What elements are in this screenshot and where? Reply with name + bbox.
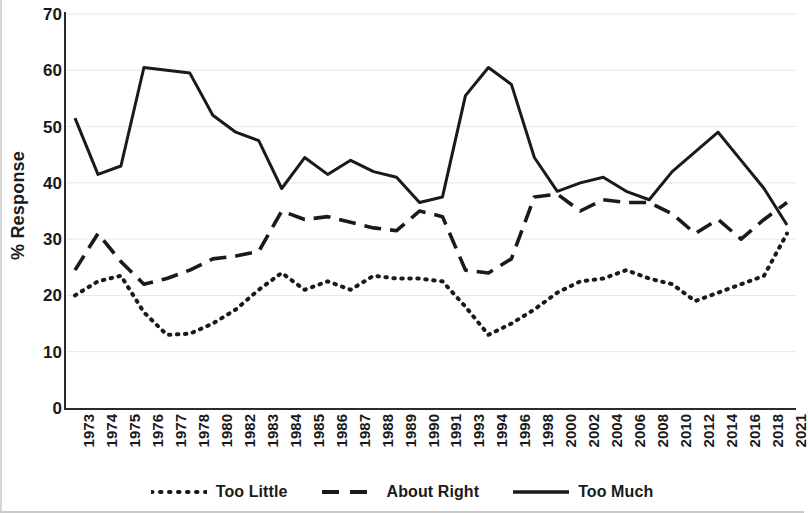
y-tick-label: 40 — [32, 174, 62, 191]
x-tick-label: 1985 — [311, 414, 326, 447]
x-tick-label: 1982 — [242, 414, 257, 447]
x-tick-label: 1998 — [540, 414, 555, 447]
y-axis-tick-labels: 706050403020100 — [28, 0, 62, 513]
y-tick-label: 10 — [32, 343, 62, 360]
series-canvas — [66, 14, 796, 408]
x-tick-label: 1974 — [104, 414, 119, 447]
x-tick-label: 1987 — [357, 414, 372, 447]
x-tick-label: 2006 — [632, 414, 647, 447]
x-tick-label: 1991 — [448, 414, 463, 447]
x-tick-label: 1990 — [426, 414, 441, 447]
y-tick-label: 20 — [32, 287, 62, 304]
legend-label: Too Much — [578, 483, 653, 501]
x-tick-label: 1989 — [403, 414, 418, 447]
x-tick-label: 1977 — [173, 414, 188, 447]
x-tick-label: 1973 — [81, 414, 96, 447]
y-tick-label: 50 — [32, 118, 62, 135]
x-tick-label: 2002 — [586, 414, 601, 447]
legend-label: About Right — [387, 483, 480, 501]
x-tick-label: 1986 — [334, 414, 349, 447]
x-tick-label: 2008 — [655, 414, 670, 447]
x-tick-label: 2012 — [701, 414, 716, 447]
series-line-too-little — [75, 234, 787, 335]
x-tick-label: 1984 — [288, 414, 303, 447]
x-tick-label: 1976 — [150, 414, 165, 447]
x-tick-label: 1980 — [219, 414, 234, 447]
y-axis-title-text: % Response — [9, 150, 30, 259]
dotted-line-swatch — [151, 486, 207, 498]
solid-line-swatch — [513, 486, 569, 498]
x-tick-label: 1983 — [265, 414, 280, 447]
x-tick-label: 2010 — [678, 414, 693, 447]
legend-item-too-little[interactable]: Too Little — [151, 483, 288, 501]
x-tick-label: 1975 — [127, 414, 142, 447]
y-tick-label: 60 — [32, 62, 62, 79]
x-tick-label: 2016 — [747, 414, 762, 447]
x-tick-label: 1996 — [517, 414, 532, 447]
x-tick-label: 2004 — [609, 414, 624, 447]
legend-label: Too Little — [216, 483, 288, 501]
x-tick-label: 2014 — [724, 414, 739, 447]
x-tick-label: 2000 — [563, 414, 578, 447]
x-tick-label: 2021 — [793, 414, 808, 447]
legend-item-about-right[interactable]: About Right — [322, 483, 480, 501]
legend-item-too-much[interactable]: Too Much — [513, 483, 653, 501]
x-tick-label: 1994 — [494, 414, 509, 447]
x-tick-label: 2018 — [770, 414, 785, 447]
x-tick-label: 1978 — [196, 414, 211, 447]
x-tick-label: 1993 — [471, 414, 486, 447]
series-line-too-much — [75, 67, 787, 225]
x-axis-line — [64, 408, 796, 410]
y-tick-label: 70 — [32, 6, 62, 23]
plot-area — [66, 14, 796, 408]
x-tick-label: 1988 — [380, 414, 395, 447]
y-tick-label: 0 — [32, 400, 62, 417]
chart-legend: Too LittleAbout RightToo Much — [0, 483, 804, 501]
x-axis-tick-labels: 1973197419751976197719781980198219831984… — [66, 412, 796, 478]
y-tick-label: 30 — [32, 231, 62, 248]
dashed-line-swatch — [322, 486, 378, 498]
